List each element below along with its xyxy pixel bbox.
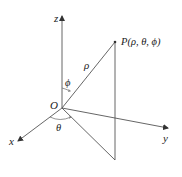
z-axis-label: z <box>53 12 59 24</box>
point-p-label: P(ρ, θ, ϕ) <box>120 36 161 48</box>
spherical-coordinates-diagram: z x y O P(ρ, θ, ϕ) ρ ϕ θ <box>0 0 182 177</box>
rho-label: ρ <box>83 59 89 71</box>
phi-label: ϕ <box>65 77 71 88</box>
theta-label: θ <box>56 122 61 133</box>
y-axis-label: y <box>162 132 168 144</box>
rho-line <box>62 42 115 108</box>
projection-xy-line <box>62 108 115 160</box>
theta-angle-arc <box>50 117 71 120</box>
origin-label: O <box>50 99 58 111</box>
point-p <box>114 41 117 44</box>
x-axis-label: x <box>8 135 14 147</box>
